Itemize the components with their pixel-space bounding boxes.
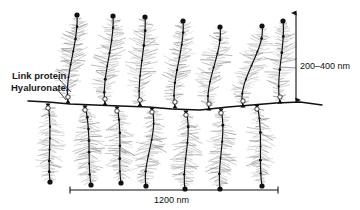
- branch-terminal-globule: [110, 13, 115, 18]
- core-protein-bead: [218, 173, 221, 176]
- link-protein-circle: [46, 106, 50, 110]
- core-protein-bead: [176, 69, 179, 72]
- link-protein-label: Link protein: [12, 71, 66, 81]
- core-protein-bead: [258, 117, 260, 119]
- core-protein-bead: [49, 137, 51, 139]
- branch-terminal-globule: [217, 24, 222, 29]
- core-protein-bead: [182, 31, 184, 33]
- core-protein-bead: [119, 131, 122, 134]
- core-protein-bead: [106, 65, 108, 67]
- core-protein-bead: [87, 128, 90, 131]
- core-protein-bead: [86, 116, 89, 119]
- core-protein-bead: [259, 131, 262, 134]
- core-protein-bead: [118, 119, 120, 121]
- core-protein-bead: [48, 170, 51, 173]
- core-protein-bead: [260, 145, 262, 147]
- core-protein-bead: [72, 51, 74, 53]
- link-protein-circle: [184, 113, 188, 117]
- branch-terminal-globule: [182, 186, 187, 191]
- core-protein-bead: [144, 29, 147, 32]
- core-protein-bead: [241, 92, 243, 94]
- core-protein-bead: [221, 124, 224, 127]
- branch-terminal-globule: [143, 183, 148, 188]
- horizontal-scale-label: 1200 nm: [154, 196, 189, 205]
- link-protein-circle: [241, 99, 245, 103]
- core-protein-bead: [151, 139, 153, 141]
- link-protein-circle: [278, 95, 282, 99]
- core-protein-bead: [88, 173, 91, 176]
- core-protein-bead: [173, 95, 175, 97]
- core-protein-bead: [67, 77, 69, 79]
- core-protein-bead: [219, 38, 222, 41]
- core-protein-bead: [282, 35, 285, 38]
- core-protein-bead: [108, 52, 110, 54]
- core-protein-bead: [209, 81, 211, 83]
- branch-terminal-globule: [118, 180, 123, 185]
- core-protein-bead: [221, 141, 223, 143]
- hyaluronate-label: Hyaluronate: [11, 83, 66, 93]
- core-protein-bead: [144, 170, 146, 172]
- core-protein-bead: [153, 123, 155, 125]
- branch-terminal-globule: [217, 186, 222, 191]
- core-protein-bead: [259, 159, 262, 162]
- link-protein-circle: [83, 108, 87, 112]
- branch-terminal-globule: [142, 14, 147, 19]
- core-protein-bead: [245, 79, 247, 81]
- core-protein-bead: [207, 95, 209, 97]
- link-protein-circle: [115, 109, 119, 113]
- core-protein-bead: [88, 139, 91, 142]
- core-protein-bead: [147, 155, 149, 157]
- core-protein-bead: [119, 145, 122, 148]
- core-protein-bead: [187, 125, 190, 128]
- core-protein-bead: [49, 125, 51, 127]
- link-protein-circle: [207, 102, 211, 106]
- core-protein-bead: [48, 148, 50, 150]
- core-protein-bead: [216, 52, 218, 54]
- branch-terminal-globule: [47, 179, 52, 184]
- vertical-scale-label: 200–400 nm: [300, 62, 350, 71]
- link-protein-circle: [173, 100, 177, 104]
- link-protein-circle: [66, 95, 70, 99]
- core-protein-bead: [260, 37, 263, 40]
- core-protein-bead: [186, 142, 188, 144]
- core-protein-bead: [250, 65, 252, 67]
- core-protein-bead: [141, 59, 143, 61]
- proteoglycan-aggregate-diagram: [0, 0, 360, 210]
- core-protein-bead: [139, 75, 141, 77]
- branch-terminal-globule: [259, 23, 264, 28]
- core-protein-bead: [174, 82, 176, 84]
- core-protein-bead: [142, 44, 145, 47]
- core-protein-bead: [48, 159, 51, 162]
- core-protein-bead: [49, 114, 51, 116]
- core-protein-bead: [260, 172, 262, 174]
- link-protein-circle: [219, 111, 223, 115]
- core-protein-bead: [119, 170, 121, 172]
- core-protein-bead: [76, 25, 79, 28]
- branch-terminal-globule: [180, 18, 185, 23]
- core-protein-bead: [66, 89, 68, 91]
- core-protein-bead: [220, 157, 222, 159]
- branch-terminal-globule: [280, 18, 285, 23]
- link-protein-circle: [150, 110, 154, 114]
- core-protein-bead: [278, 85, 280, 87]
- core-protein-bead: [278, 68, 281, 71]
- link-protein-circle: [255, 107, 259, 111]
- core-protein-bead: [179, 56, 181, 58]
- figure-root: Link protein Hyaluronate 200–400 nm 1200…: [0, 0, 360, 210]
- core-protein-bead: [74, 38, 77, 41]
- branch-terminal-globule: [74, 12, 79, 17]
- core-protein-bead: [280, 51, 283, 54]
- branch-terminal-globule: [259, 183, 264, 188]
- core-protein-bead: [88, 162, 90, 164]
- core-protein-bead: [112, 27, 114, 29]
- branch-terminal-globule: [88, 182, 93, 187]
- core-protein-bead: [256, 51, 258, 53]
- core-protein-bead: [118, 157, 121, 160]
- core-protein-bead: [104, 78, 107, 81]
- core-protein-bead: [183, 173, 185, 175]
- core-protein-bead: [70, 63, 72, 65]
- core-protein-bead: [213, 67, 215, 69]
- core-protein-bead: [88, 151, 91, 154]
- core-protein-bead: [185, 158, 187, 160]
- core-protein-bead: [103, 91, 106, 94]
